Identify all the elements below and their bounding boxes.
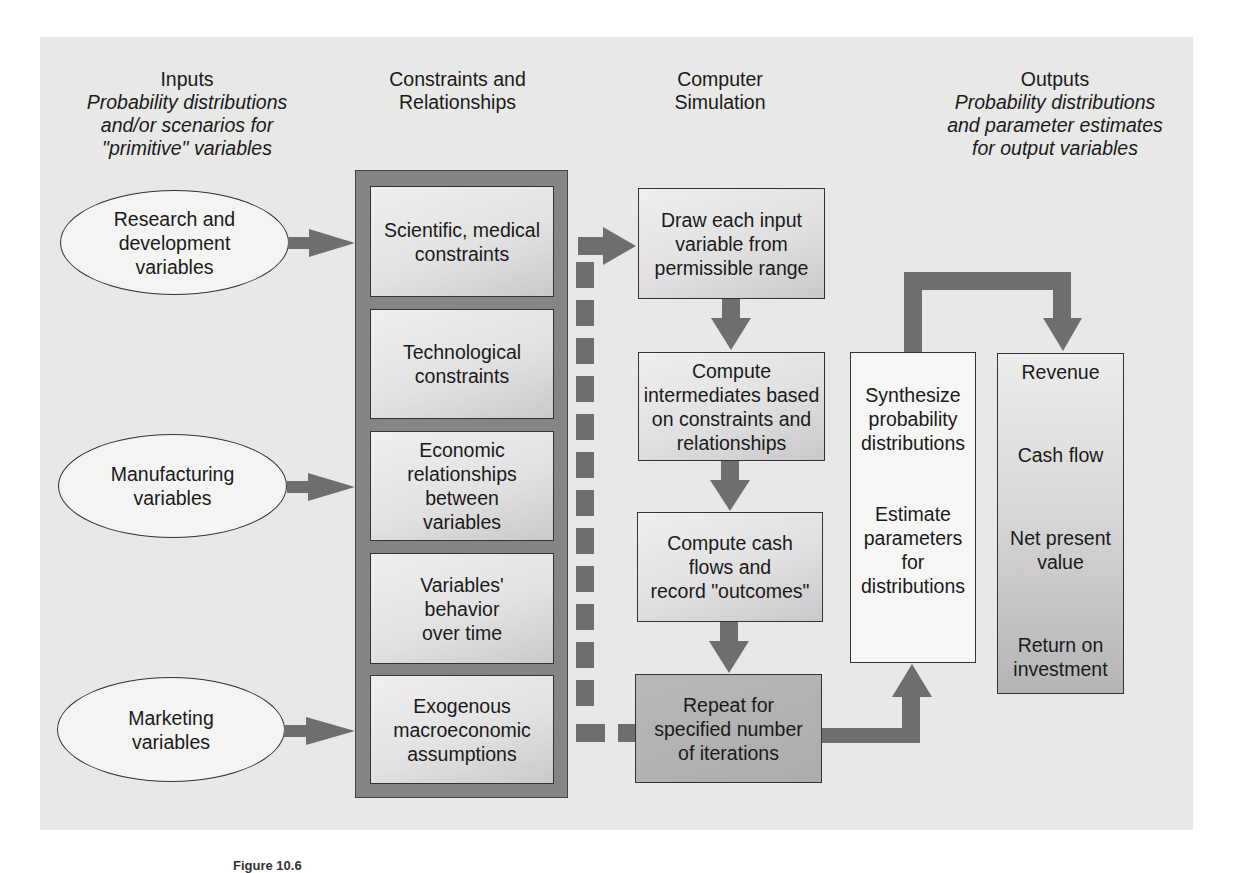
arrow-right-icon — [288, 229, 355, 257]
arrow-down-icon — [711, 299, 751, 350]
arrow-down-icon — [709, 622, 749, 673]
arrow-down-icon — [710, 461, 750, 511]
figure-caption: Figure 10.6 — [233, 858, 302, 873]
arrow-right-icon — [578, 227, 636, 265]
arrow-right-icon — [284, 717, 355, 745]
arrow-elbow-up-icon — [822, 664, 932, 743]
arrow-elbow-down-icon — [904, 272, 1082, 352]
arrow-right-icon — [287, 473, 355, 501]
